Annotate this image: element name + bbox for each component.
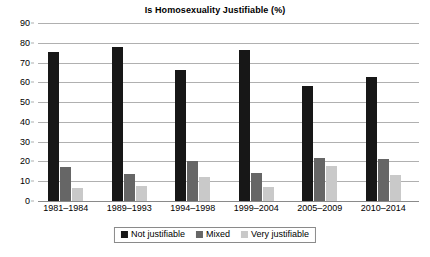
y-axis-tick-label: 30 — [20, 137, 30, 147]
bar — [366, 77, 377, 201]
x-axis-tick-label: 1981–1984 — [43, 203, 88, 213]
y-axis-tick-label: 20 — [20, 156, 30, 166]
chart-container: Is Homosexuality Justifiable (%) 0102030… — [0, 0, 430, 257]
y-axis-tick-label: 80 — [20, 38, 30, 48]
legend-item[interactable]: Very justifiable — [241, 230, 309, 239]
x-axis-tick-label: 2010–2014 — [361, 203, 406, 213]
bar — [251, 173, 262, 201]
y-axis-tick-mark — [31, 141, 34, 142]
y-axis: 0102030405060708090 — [0, 23, 34, 201]
bar — [72, 188, 83, 201]
y-axis-tick-mark — [31, 23, 34, 24]
x-axis-tick-label: 1999–2004 — [234, 203, 279, 213]
bar — [124, 174, 135, 201]
bar — [60, 167, 71, 201]
axis-baseline — [38, 201, 419, 202]
y-axis-tick-mark — [31, 121, 34, 122]
plot-area — [38, 23, 419, 201]
bar-group — [292, 23, 356, 201]
bar — [302, 86, 313, 201]
x-axis-tick-label: 1989–1993 — [107, 203, 152, 213]
chart-title: Is Homosexuality Justifiable (%) — [0, 5, 430, 15]
bar-group — [229, 23, 293, 201]
bar — [326, 166, 337, 201]
legend-swatch-icon — [241, 231, 248, 238]
legend-item[interactable]: Mixed — [196, 230, 230, 239]
bar — [263, 187, 274, 201]
legend-swatch-icon — [121, 231, 128, 238]
y-axis-tick-label: 70 — [20, 58, 30, 68]
bar — [378, 159, 389, 201]
bar — [239, 50, 250, 201]
x-axis-tick-label: 1994–1998 — [170, 203, 215, 213]
chart-legend: Not justifiableMixedVery justifiable — [114, 227, 316, 243]
x-axis: 1981–19841989–19931994–19981999–20042005… — [38, 203, 419, 219]
bar — [199, 177, 210, 201]
y-axis-tick-label: 60 — [20, 77, 30, 87]
bar — [136, 186, 147, 201]
bar-group — [165, 23, 229, 201]
y-axis-tick-mark — [31, 102, 34, 103]
y-axis-tick-label: 50 — [20, 97, 30, 107]
bar — [48, 52, 59, 201]
legend-label: Mixed — [206, 230, 230, 239]
legend-swatch-icon — [196, 231, 203, 238]
bar — [175, 70, 186, 201]
bar — [390, 175, 401, 202]
bar-group — [102, 23, 166, 201]
x-axis-tick-label: 2005–2009 — [297, 203, 342, 213]
y-axis-tick-mark — [31, 82, 34, 83]
legend-item[interactable]: Not justifiable — [121, 230, 185, 239]
bar — [314, 158, 325, 201]
y-axis-tick-mark — [31, 161, 34, 162]
y-axis-tick-mark — [31, 181, 34, 182]
y-axis-tick-label: 0 — [25, 196, 30, 206]
legend-label: Very justifiable — [251, 230, 309, 239]
bar — [187, 161, 198, 201]
bar-group — [356, 23, 420, 201]
y-axis-tick-mark — [31, 62, 34, 63]
y-axis-tick-label: 10 — [20, 176, 30, 186]
y-axis-tick-mark — [31, 42, 34, 43]
y-axis-tick-label: 90 — [20, 18, 30, 28]
y-axis-tick-label: 40 — [20, 117, 30, 127]
legend-label: Not justifiable — [131, 230, 185, 239]
bar-group — [38, 23, 102, 201]
bar — [112, 47, 123, 201]
y-axis-tick-mark — [31, 201, 34, 202]
